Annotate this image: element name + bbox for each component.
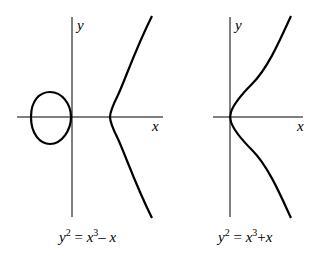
y-axis-label: y [233,17,242,33]
panel-left: x y y2 = x3– x [17,16,163,245]
x-axis-label: x [296,118,304,134]
x-axis-label: x [151,118,159,134]
equation-caption: y2 = x3– x [57,227,117,245]
equation-caption: y2 = x3+x [216,227,273,245]
elliptic-curves-figure: x y y2 = x3– x x y y2 = x3+x [0,0,322,256]
panel-right: x y y2 = x3+x [213,16,304,245]
y-axis-label: y [75,17,84,33]
curve-loop [31,92,71,144]
